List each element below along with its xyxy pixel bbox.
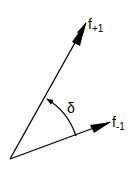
label-f-plus-1: f+1	[88, 16, 104, 34]
label-delta: δ	[67, 100, 75, 116]
label-f-plus-1-sub: +1	[92, 23, 104, 34]
label-f-minus-1-sub: -1	[116, 121, 125, 132]
arrowhead-f-plus-1	[72, 22, 86, 46]
label-f-minus-1: f-1	[112, 114, 125, 132]
arrowhead-f-minus-1	[90, 122, 111, 133]
vector-diagram: f+1 f-1 δ	[0, 0, 136, 172]
vector-f-plus-1	[10, 23, 86, 159]
